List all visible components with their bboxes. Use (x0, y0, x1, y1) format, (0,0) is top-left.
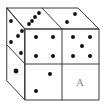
pip-dot (48, 72, 52, 76)
pip-dot (88, 35, 92, 39)
pip-dot (9, 19, 13, 23)
pip-dot (9, 40, 13, 44)
pip-dot (34, 89, 38, 93)
left-face-lower-die (14, 69, 19, 74)
pip-dot (88, 54, 92, 58)
pip-dot (30, 19, 34, 23)
pip-dot (65, 20, 69, 24)
pip-dot (14, 69, 19, 74)
pip-dot (27, 22, 31, 26)
pip-dot (16, 34, 20, 38)
pip-dot (20, 29, 24, 33)
pip-dot (80, 44, 84, 48)
pip-dot (73, 12, 77, 16)
pip-dot (37, 11, 41, 15)
dice-cube-diagram: A (0, 0, 105, 106)
pip-dot (71, 35, 75, 39)
pip-dot (34, 35, 38, 39)
pip-dot (34, 54, 38, 58)
unknown-face-label-a: A (76, 76, 84, 88)
pip-dot (71, 54, 75, 58)
pip-dot (19, 51, 23, 55)
pip-dot (51, 54, 55, 58)
pip-dot (51, 35, 55, 39)
pip-dot (33, 15, 37, 19)
